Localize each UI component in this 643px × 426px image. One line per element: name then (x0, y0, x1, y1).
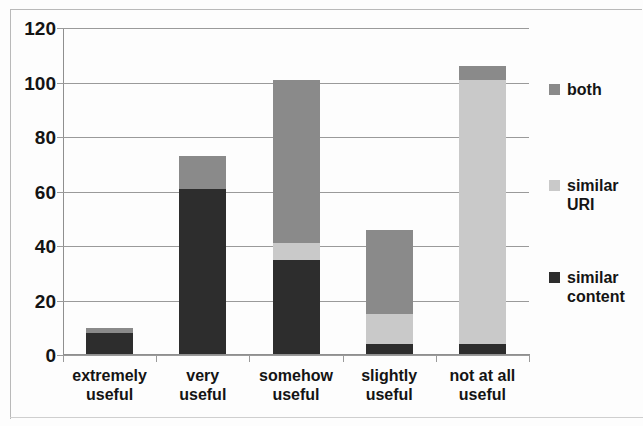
y-axis-label-60: 60 (4, 183, 56, 202)
y-tick-120 (57, 28, 63, 29)
legend-entry[interactable]: both (549, 80, 602, 99)
bar-segment (86, 328, 133, 333)
bar-segment (366, 230, 413, 314)
x-axis-label-line: very (156, 366, 249, 385)
x-axis-label: slightlyuseful (343, 366, 436, 404)
x-axis-label-line: extremely (63, 366, 156, 385)
x-axis-label: extremelyuseful (63, 366, 156, 404)
bar-segment (366, 314, 413, 344)
bar-group (273, 28, 320, 355)
bar-segment (86, 333, 133, 355)
y-axis-tick-labels: 020406080100120 (0, 28, 56, 355)
legend-label: both (567, 80, 602, 99)
x-axis-label: not at alluseful (436, 366, 529, 404)
legend-swatch-icon (549, 272, 560, 283)
bar-group (179, 28, 226, 355)
x-tick (249, 355, 250, 362)
x-tick (343, 355, 344, 362)
x-axis-label-line: useful (343, 385, 436, 404)
x-axis-label-line: not at all (436, 366, 529, 385)
y-axis-label-80: 80 (4, 128, 56, 147)
bar-segment (179, 189, 226, 355)
x-axis-label-line: slightly (343, 366, 436, 385)
y-axis-label-0: 0 (4, 346, 56, 365)
legend-entry[interactable]: similar content (549, 268, 625, 306)
chart-screenshot: 020406080100120 extremelyusefulveryusefu… (0, 0, 643, 426)
y-tick-80 (57, 137, 63, 138)
x-axis-tick-labels: extremelyusefulveryusefulsomehowusefulsl… (63, 366, 529, 416)
y-axis-label-120: 120 (4, 19, 56, 38)
x-axis-label-line: useful (249, 385, 342, 404)
y-axis-label-100: 100 (4, 74, 56, 93)
y-tick-40 (57, 246, 63, 247)
x-axis-label: somehowuseful (249, 366, 342, 404)
legend-entry[interactable]: similar URI (549, 176, 619, 214)
gridline-0 (63, 355, 529, 356)
y-tick-20 (57, 301, 63, 302)
x-tick (63, 355, 64, 362)
y-axis-label-20: 20 (4, 292, 56, 311)
x-tick (529, 355, 530, 362)
legend-label: similar content (567, 268, 625, 306)
bar-segment (273, 243, 320, 259)
x-axis-label-line: useful (63, 385, 156, 404)
bar-segment (459, 66, 506, 80)
image-border-bottom (10, 417, 643, 418)
y-tick-60 (57, 192, 63, 193)
x-axis-label-line: somehow (249, 366, 342, 385)
bar-group (366, 28, 413, 355)
x-axis-label-line: useful (436, 385, 529, 404)
x-axis-label: veryuseful (156, 366, 249, 404)
bar-segment (273, 260, 320, 355)
y-axis-label-40: 40 (4, 237, 56, 256)
y-tick-100 (57, 83, 63, 84)
bar-group (459, 28, 506, 355)
x-axis-line (63, 354, 530, 355)
legend-label: similar URI (567, 176, 619, 214)
legend-swatch-icon (549, 180, 560, 191)
bar-segment (459, 80, 506, 344)
x-tick (436, 355, 437, 362)
legend-swatch-icon (549, 84, 560, 95)
bar-segment (179, 156, 226, 189)
bar-segment (273, 80, 320, 244)
plot-area (63, 28, 529, 355)
x-axis-label-line: useful (156, 385, 249, 404)
bar-group (86, 28, 133, 355)
x-tick (156, 355, 157, 362)
